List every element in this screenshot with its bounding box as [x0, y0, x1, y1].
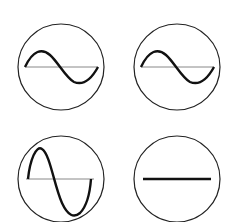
panel-bottom-left: [18, 136, 104, 222]
panel-bottom-right: [134, 136, 220, 222]
large-sine-wave-icon: [28, 148, 91, 215]
waveform-diagram: [0, 0, 226, 222]
panel-top-left: [18, 24, 104, 110]
panel-top-right: [134, 24, 220, 110]
